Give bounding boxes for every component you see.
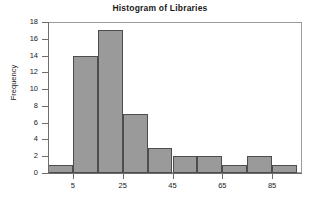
y-axis-tick: [42, 56, 49, 57]
histogram-bar: [222, 165, 247, 173]
histogram-bar: [173, 156, 198, 173]
page-title: Histogram of Libraries: [0, 3, 320, 13]
y-axis-line: [48, 22, 49, 174]
histogram-bar: [123, 114, 148, 173]
y-axis-tick-label: 18: [30, 18, 38, 26]
y-axis-tick: [42, 156, 49, 157]
y-axis-tick: [42, 39, 49, 40]
y-axis-tick: [42, 106, 49, 107]
y-axis-tick: [42, 22, 49, 23]
y-axis-tick-label: 16: [30, 35, 38, 43]
histogram-bar: [272, 165, 297, 173]
histogram-figure: Histogram of Libraries 024681012141618 5…: [0, 0, 320, 197]
y-axis-tick-label: 2: [34, 152, 38, 160]
x-axis-tick-label: 5: [60, 182, 86, 190]
x-axis-tick: [222, 174, 223, 179]
x-axis-line: [48, 173, 302, 174]
histogram-bar: [98, 30, 123, 173]
y-axis-tick: [42, 173, 49, 174]
histogram-bar: [197, 156, 222, 173]
histogram-bar: [73, 56, 98, 173]
y-axis-tick-label: 4: [34, 135, 38, 143]
x-axis-tick-label: 45: [160, 182, 186, 190]
y-axis-label: Frequency: [9, 48, 18, 118]
x-axis-tick-label: 25: [110, 182, 136, 190]
x-axis-tick: [73, 174, 74, 179]
y-axis-tick-label: 12: [30, 68, 38, 76]
histogram-bar: [148, 148, 173, 173]
histogram-bar: [247, 156, 272, 173]
y-axis-tick-label: 6: [34, 119, 38, 127]
x-axis-tick-label: 85: [259, 182, 285, 190]
y-axis-tick: [42, 72, 49, 73]
y-axis-tick: [42, 139, 49, 140]
y-axis-tick: [42, 89, 49, 90]
histogram-bar: [48, 165, 73, 173]
x-axis-tick: [272, 174, 273, 179]
x-axis-tick: [123, 174, 124, 179]
y-axis-tick: [42, 123, 49, 124]
y-axis-tick-label: 14: [30, 52, 38, 60]
x-axis-tick: [173, 174, 174, 179]
x-axis-tick-label: 65: [209, 182, 235, 190]
y-axis-tick-label: 10: [30, 85, 38, 93]
y-axis-tick-label: 8: [34, 102, 38, 110]
y-axis-tick-label: 0: [34, 169, 38, 177]
bars-layer: [48, 22, 302, 173]
